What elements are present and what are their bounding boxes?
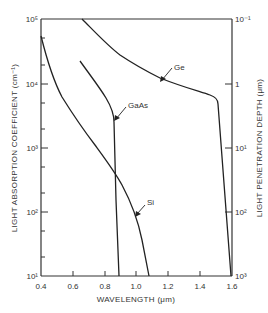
y-axis-title-right: LIGHT PENETRATION DEPTH (μm) (255, 79, 264, 218)
curve-gaas (80, 61, 119, 276)
y-right-tick-1e-1: 10⁻¹ (235, 15, 251, 24)
y-axis-title-left: LIGHT ABSORPTION COEFFICIENT (cm⁻¹) (10, 64, 19, 232)
y-right-tick-1e1: 10¹ (235, 144, 247, 153)
y-left-tick-1e2: 10² (26, 208, 38, 217)
x-tick-1.2: 1.2 (162, 282, 174, 291)
x-tick-1.4: 1.4 (194, 282, 206, 291)
label-ge: Ge (174, 63, 185, 72)
y-left-tick-1e4: 10⁴ (26, 80, 39, 89)
ge-annotation: Ge (160, 63, 185, 82)
x-tick-0.4: 0.4 (35, 282, 47, 291)
gaas-annotation: GaAs (114, 101, 148, 121)
y-right-tick-1: 1 (235, 80, 240, 89)
y-left-tick-labels: 10⁵ 10⁴ 10³ 10² 10¹ (26, 15, 39, 281)
x-axis-title: WAVELENGTH (μm) (97, 295, 175, 304)
x-tick-0.8: 0.8 (99, 282, 111, 291)
y-left-tick-1e1: 10¹ (26, 272, 38, 281)
label-si: Si (147, 198, 154, 207)
curve-si (41, 36, 149, 276)
y-left-tick-1e5: 10⁵ (26, 15, 38, 24)
y-right-ticks (225, 84, 232, 212)
y-right-tick-1e2: 10² (235, 208, 247, 217)
y-right-tick-1e3: 10³ (235, 272, 247, 281)
x-axis-tick-labels: 0.4 0.6 0.8 1.0 1.2 1.4 1.6 (35, 282, 238, 291)
y-left-tick-1e3: 10³ (26, 144, 38, 153)
absorption-chart: 0.4 0.6 0.8 1.0 1.2 1.4 1.6 WAVELENGTH (… (0, 0, 268, 313)
plot-frame (41, 19, 232, 276)
curve-ge (82, 19, 231, 276)
x-axis-ticks (73, 271, 200, 276)
x-tick-1.6: 1.6 (226, 282, 238, 291)
y-left-ticks (41, 38, 48, 257)
si-annotation: Si (135, 198, 154, 217)
label-gaas: GaAs (128, 101, 148, 110)
x-tick-1.0: 1.0 (130, 282, 142, 291)
x-tick-0.6: 0.6 (67, 282, 79, 291)
y-right-tick-labels: 10⁻¹ 1 10¹ 10² 10³ (235, 15, 251, 281)
